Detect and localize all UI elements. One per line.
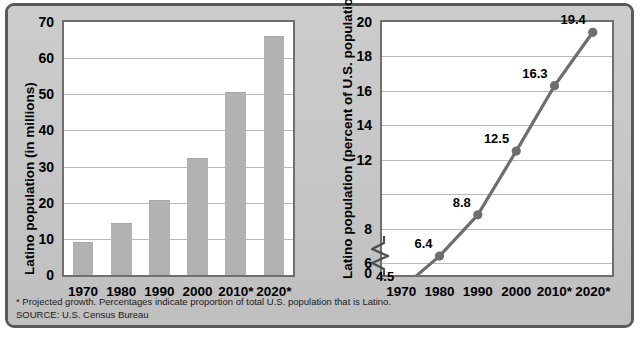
- figure-root: Latino population (in millions) 01020304…: [0, 0, 641, 340]
- gridline: [64, 203, 293, 204]
- bar-chart: Latino population (in millions) 01020304…: [0, 0, 320, 340]
- bar-2000: [187, 158, 208, 275]
- gridline: [64, 94, 293, 95]
- y-tick-label-20: 20: [320, 15, 372, 29]
- y-tick-label-30: 30: [0, 160, 54, 174]
- data-label-1990: 8.8: [453, 194, 471, 209]
- x-tick-label-2020-projected: 2020*: [568, 285, 618, 299]
- y-tick-label-70: 70: [0, 15, 54, 29]
- y-tick-label-60: 60: [0, 51, 54, 65]
- data-point-1980: [435, 252, 444, 261]
- data-label-2020-projected: 19.4: [560, 12, 585, 27]
- gridline: [64, 58, 293, 59]
- data-label-1970: 4.5: [376, 268, 394, 283]
- data-point-1990: [473, 210, 482, 219]
- y-tick-label-20: 20: [0, 196, 54, 210]
- bar-1970: [73, 242, 94, 276]
- bar-chart-y-axis-title: Latino population (in millions): [22, 82, 37, 275]
- footnote-source: SOURCE: U.S. Census Bureau: [16, 309, 149, 322]
- data-label-2010-projected: 16.3: [522, 65, 547, 80]
- bar-2020-projected: [264, 36, 285, 276]
- bar-chart-plot-area: [62, 20, 295, 277]
- y-tick-label-40: 40: [0, 123, 54, 137]
- y-tick-label-8: 8: [320, 222, 372, 236]
- data-point-2010-projected: [550, 81, 559, 90]
- y-tick-label-10: 10: [0, 232, 54, 246]
- data-point-2000: [512, 147, 521, 156]
- y-tick-label-0: 0: [0, 268, 54, 282]
- line-chart: Latino population (percent of U.S. popul…: [320, 0, 641, 340]
- y-tick-label-14: 14: [320, 118, 372, 132]
- y-tick-label-50: 50: [0, 87, 54, 101]
- gridline: [64, 130, 293, 131]
- bar-2010-projected: [225, 92, 246, 276]
- line-chart-y-axis-title: Latino population (percent of U.S. popul…: [340, 0, 355, 279]
- gridline: [64, 167, 293, 168]
- data-label-2000: 12.5: [484, 131, 509, 146]
- y-tick-label-zero: 0: [320, 266, 372, 280]
- footnote-projected-growth: * Projected growth. Percentages indicate…: [16, 296, 391, 309]
- y-tick-label-18: 18: [320, 49, 372, 63]
- y-tick-label-12: 12: [320, 153, 372, 167]
- data-point-2020-projected: [588, 28, 597, 37]
- data-label-1980: 6.4: [414, 236, 432, 251]
- gridline: [64, 239, 293, 240]
- y-tick-label-16: 16: [320, 84, 372, 98]
- bar-1990: [149, 200, 170, 275]
- bar-1980: [111, 223, 132, 275]
